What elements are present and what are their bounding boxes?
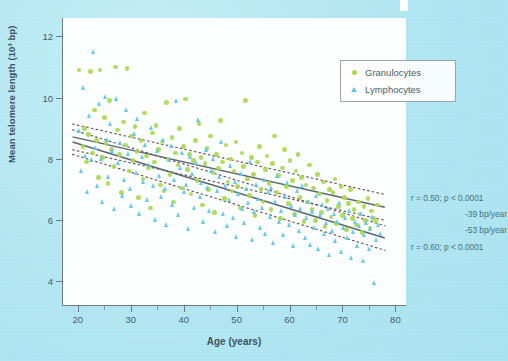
regression-line (73, 137, 385, 207)
confidence-band (73, 150, 385, 220)
confidence-band (73, 124, 385, 194)
x-axis-title: Age (years) (62, 336, 406, 347)
y-tick-label: 6 (48, 215, 53, 226)
legend-label-lymphocytes: Lymphocytes (365, 84, 421, 95)
x-tick-minor (104, 306, 105, 310)
x-tick (184, 306, 185, 312)
x-tick-label: 80 (390, 314, 401, 325)
confidence-band (73, 154, 385, 250)
y-tick-label: 12 (42, 31, 53, 42)
y-tick (56, 159, 62, 160)
legend-item-granulocytes: Granulocytes (347, 65, 449, 79)
x-tick-label: 40 (178, 314, 189, 325)
x-tick (290, 306, 291, 312)
y-tick (56, 36, 62, 37)
annotation-granulocyte-r: r = 0.50; p < 0.0001 (411, 190, 508, 206)
regression-line (73, 142, 385, 238)
x-tick-minor (316, 306, 317, 310)
x-tick-label: 60 (284, 314, 295, 325)
lymphocyte-triangle-icon (347, 87, 361, 92)
y-tick (56, 281, 62, 282)
annotation-lymphocyte-slope: -53 bp/year (411, 222, 508, 238)
y-tick (56, 98, 62, 99)
chart-legend: Granulocytes Lymphocytes (340, 60, 456, 102)
x-tick-label: 50 (231, 314, 242, 325)
y-axis-title: Mean telomere length (10³ bp) (6, 25, 17, 163)
x-tick-minor (210, 306, 211, 310)
x-tick-label: 30 (126, 314, 137, 325)
y-tick (56, 220, 62, 221)
x-tick-label: 20 (73, 314, 84, 325)
x-tick (395, 306, 396, 312)
annotation-granulocyte-slope: -39 bp/year (411, 206, 508, 222)
slide-background: Mean telomere length (10³ bp) 4681012203… (0, 0, 508, 361)
y-tick-label: 4 (48, 276, 53, 287)
x-tick-minor (263, 306, 264, 310)
annotation-lymphocyte-r: r = 0.60; p < 0.0001 (411, 239, 508, 255)
statistics-annotations: r = 0.50; p < 0.0001 -39 bp/year -53 bp/… (411, 190, 508, 255)
x-tick (78, 306, 79, 312)
x-tick (237, 306, 238, 312)
legend-label-granulocytes: Granulocytes (365, 67, 421, 78)
plot-area: 468101220304050607080 Granulocytes Lymph… (62, 18, 406, 306)
y-tick-label: 8 (48, 153, 53, 164)
x-tick-minor (157, 306, 158, 310)
x-tick (131, 306, 132, 312)
scan-edge-artifact (400, 0, 408, 11)
x-tick-minor (369, 306, 370, 310)
granulocyte-circle-icon (347, 70, 361, 75)
x-tick (342, 306, 343, 312)
x-tick-label: 70 (337, 314, 348, 325)
legend-item-lymphocytes: Lymphocytes (347, 82, 449, 96)
y-tick-label: 10 (42, 92, 53, 103)
confidence-band (73, 130, 385, 226)
